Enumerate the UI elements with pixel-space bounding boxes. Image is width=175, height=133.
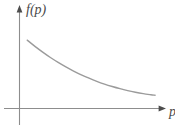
figure-container: f(p) p	[0, 0, 175, 133]
y-axis-arrow-icon	[17, 5, 23, 12]
x-axis-arrow-icon	[159, 106, 166, 112]
curve-f-of-p	[27, 40, 155, 95]
y-axis-label: f(p)	[26, 3, 46, 17]
x-axis-label: p	[169, 105, 175, 119]
function-plot	[0, 0, 175, 133]
